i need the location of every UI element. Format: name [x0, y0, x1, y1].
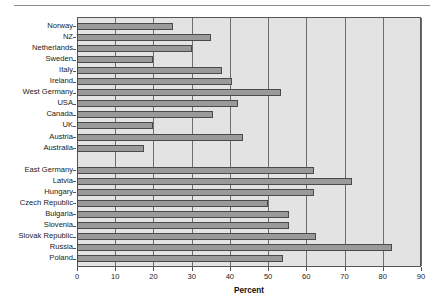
bar-bulgaria [77, 211, 289, 218]
bar-ireland [77, 78, 232, 85]
bar-row [77, 111, 421, 118]
category-label-bulgaria: Bulgaria [45, 210, 73, 218]
y-tick [73, 71, 76, 72]
bar-row [77, 145, 421, 152]
category-label-usa: USA [57, 99, 73, 107]
bar-usa [77, 100, 238, 107]
header-divider [14, 5, 430, 6]
bar-row [77, 100, 421, 107]
x-tick-label-80: 80 [379, 272, 387, 281]
y-tick [73, 126, 76, 127]
category-label-west-germany: West Germany [23, 88, 74, 96]
y-tick [73, 115, 76, 116]
x-tick-10 [115, 267, 116, 271]
bar-row [77, 167, 421, 174]
x-tick-60 [306, 267, 307, 271]
bar-row [77, 78, 421, 85]
bar-row [77, 178, 421, 185]
category-label-uk: UK [62, 121, 73, 129]
y-tick [73, 259, 76, 260]
y-tick [73, 26, 76, 27]
x-tick-label-70: 70 [340, 272, 348, 281]
bar-row [77, 134, 421, 141]
category-labels: NorwayNZNetherlandsSwedenItalyIrelandWes… [0, 17, 73, 267]
category-label-czech-republic: Czech Republic [20, 199, 73, 207]
gridline-90 [421, 18, 422, 266]
bar-russia [77, 244, 392, 251]
category-label-netherlands: Netherlands [32, 44, 73, 52]
bars-layer [77, 17, 421, 267]
x-tick-label-40: 40 [226, 272, 234, 281]
bar-norway [77, 23, 173, 30]
bar-row [77, 211, 421, 218]
bar-row [77, 200, 421, 207]
category-label-ireland: Ireland [50, 77, 73, 85]
bar-canada [77, 111, 213, 118]
bar-latvia [77, 178, 352, 185]
category-label-australia: Australia [43, 144, 73, 152]
y-tick [73, 248, 76, 249]
y-tick [73, 82, 76, 83]
bar-row [77, 233, 421, 240]
category-label-russia: Russia [50, 243, 73, 251]
x-tick-70 [345, 267, 346, 271]
y-tick [73, 192, 76, 193]
y-tick [73, 226, 76, 227]
bar-netherlands [77, 45, 192, 52]
bar-row [77, 222, 421, 229]
y-tick [73, 170, 76, 171]
y-tick [73, 203, 76, 204]
x-tick-label-20: 20 [149, 272, 157, 281]
category-label-italy: Italy [59, 66, 73, 74]
y-tick [73, 104, 76, 105]
y-tick [73, 181, 76, 182]
y-tick [73, 49, 76, 50]
x-tick-label-90: 90 [417, 272, 425, 281]
bar-row [77, 122, 421, 129]
bar-austria [77, 134, 243, 141]
category-label-east-germany: East Germany [24, 166, 73, 174]
bar-row [77, 189, 421, 196]
x-tick-label-50: 50 [264, 272, 272, 281]
bar-west-germany [77, 89, 281, 96]
x-tick-label-10: 10 [111, 272, 119, 281]
bar-slovenia [77, 222, 289, 229]
bar-czech-republic [77, 200, 268, 207]
bar-row [77, 67, 421, 74]
category-label-slovenia: Slovenia [44, 221, 73, 229]
category-label-norway: Norway [47, 22, 73, 30]
bar-poland [77, 255, 283, 262]
bar-row [77, 89, 421, 96]
bar-hungary [77, 189, 314, 196]
x-tick-40 [230, 267, 231, 271]
category-label-hungary: Hungary [44, 188, 73, 196]
category-label-slovak-republic: Slovak Republic [19, 232, 73, 240]
bar-row [77, 45, 421, 52]
x-tick-label-30: 30 [187, 272, 195, 281]
x-tick-label-0: 0 [75, 272, 79, 281]
x-tick-90 [421, 267, 422, 271]
y-tick [73, 214, 76, 215]
y-tick [73, 93, 76, 94]
y-tick [73, 237, 76, 238]
category-label-nz: NZ [63, 33, 73, 41]
x-axis-title: Percent [77, 286, 421, 295]
bar-east-germany [77, 167, 314, 174]
category-label-poland: Poland [49, 254, 73, 262]
bar-row [77, 56, 421, 63]
x-tick-30 [192, 267, 193, 271]
bar-uk [77, 122, 153, 129]
bar-nz [77, 34, 211, 41]
bar-australia [77, 145, 144, 152]
category-label-sweden: Sweden [46, 55, 73, 63]
y-tick [73, 37, 76, 38]
bar-slovak-republic [77, 233, 316, 240]
category-label-canada: Canada [46, 110, 73, 118]
y-tick [73, 148, 76, 149]
x-tick-0 [77, 267, 78, 271]
bar-row [77, 255, 421, 262]
y-tick [73, 137, 76, 138]
bar-row [77, 34, 421, 41]
x-tick-80 [383, 267, 384, 271]
x-tick-20 [153, 267, 154, 271]
